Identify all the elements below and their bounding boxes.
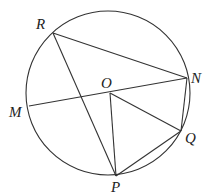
circle (26, 11, 190, 175)
label-O: O (101, 75, 112, 91)
label-R: R (35, 16, 45, 32)
label-M: M (8, 104, 23, 120)
label-P: P (110, 179, 120, 193)
segment-OQ (110, 93, 181, 131)
segment-PQ (116, 131, 181, 176)
label-N: N (190, 70, 202, 86)
segment-RP (53, 33, 116, 176)
circle-diagram: R N O M Q P (0, 0, 210, 193)
segment-RN (53, 33, 187, 78)
label-Q: Q (185, 130, 196, 146)
